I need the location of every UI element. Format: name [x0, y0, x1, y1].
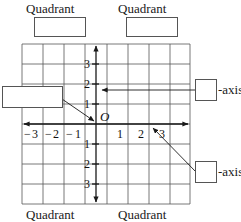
tick-x-neg-2: 2: [53, 128, 59, 140]
quadrant-label-bottom-right: Quadrant: [118, 208, 166, 222]
tick-x-2: 2: [138, 128, 144, 140]
tick-y-3: 3: [84, 58, 90, 70]
origin-label: O: [100, 110, 109, 123]
tick-x-neg-3-sign: −: [24, 128, 31, 140]
answer-box-origin-callout[interactable]: [2, 86, 63, 108]
tick-x-neg-1: 1: [75, 128, 81, 140]
tick-x-neg-3: 3: [32, 128, 38, 140]
tick-y-2: 2: [84, 78, 90, 90]
tick-y-neg-2: 2: [84, 158, 90, 170]
answer-box-axis-upper[interactable]: [195, 79, 217, 101]
tick-y-1: 1: [84, 98, 90, 110]
tick-x-neg-2-sign: −: [45, 128, 52, 140]
coordinate-grid-svg: [0, 0, 241, 222]
axis-label-lower: -axis: [218, 165, 241, 179]
tick-x-neg-1-sign: −: [66, 128, 73, 140]
tick-x-3: 3: [159, 128, 165, 140]
tick-y-neg-1: 1: [84, 138, 90, 150]
tick-x-1: 1: [117, 128, 123, 140]
figure-canvas: Quadrant Quadrant: [0, 0, 241, 222]
tick-y-neg-3: 3: [84, 178, 90, 190]
axis-label-upper: -axis: [218, 83, 241, 97]
answer-box-axis-lower[interactable]: [195, 161, 217, 183]
quadrant-label-bottom-left: Quadrant: [26, 208, 74, 222]
